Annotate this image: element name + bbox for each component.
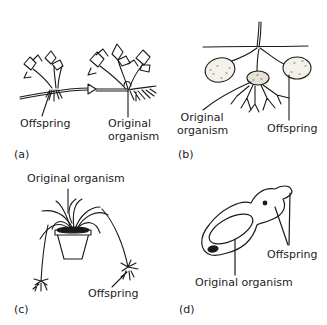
label-offspring: Offspring	[267, 248, 317, 261]
label-offspring: Offspring	[267, 122, 317, 135]
label-original-organism: Original organism	[195, 276, 293, 289]
label-original-line2: organism	[108, 130, 148, 143]
potato-tubers-drawing	[163, 0, 327, 163]
label-original-organism: Original organism	[177, 111, 227, 137]
panel-d: Offspring Original organism (d)	[163, 163, 327, 325]
label-original-line1: Original	[177, 111, 227, 124]
panel-c: Original organism Offspring (c)	[0, 163, 163, 325]
label-offspring: Offspring	[88, 287, 138, 300]
label-original-line2: organism	[177, 124, 227, 137]
label-original-organism: Original organism	[27, 172, 125, 185]
panel-b: Original organism Offspring (b)	[163, 0, 327, 163]
budding-organism-drawing	[163, 163, 327, 325]
label-offspring: Offspring	[20, 117, 70, 130]
panel-tag-b: (b)	[178, 148, 194, 161]
panel-a: Offspring Original organism (a)	[0, 0, 163, 163]
label-original-line1: Original	[108, 117, 148, 130]
panel-tag-a: (a)	[14, 148, 29, 161]
spider-plant-drawing	[0, 163, 163, 325]
panel-tag-c: (c)	[14, 303, 29, 316]
label-original-organism: Original organism	[108, 117, 148, 143]
panel-tag-d: (d)	[179, 303, 195, 316]
